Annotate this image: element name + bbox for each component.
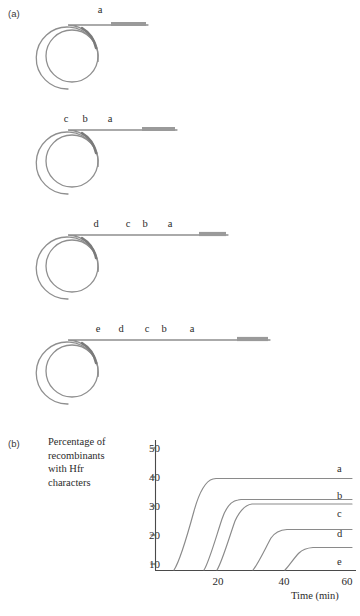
curve-a	[174, 479, 352, 571]
chromosome-origin-arc	[82, 343, 96, 363]
panel-a-conjugation-diagrams: (a) a c b a	[0, 0, 360, 420]
chromosome-outer-spiral	[36, 235, 228, 299]
x-tick-label-60: 60	[342, 575, 353, 587]
panel-b-chart: (b) Percentage of recombinants with Hfr …	[0, 425, 360, 616]
chromosome-outer-spiral	[36, 25, 148, 89]
gene-label: a	[190, 323, 195, 334]
chromosome-outer-spiral	[36, 340, 270, 404]
hfr-chromosome-1: a	[0, 0, 360, 105]
hfr-strand-svg-3	[0, 210, 360, 315]
curve-label-d: d	[337, 528, 342, 539]
curve-c	[217, 504, 352, 570]
hfr-chromosome-2: c b a	[0, 105, 360, 210]
gene-label: b	[142, 218, 147, 229]
hfr-strand-svg-4	[0, 315, 360, 420]
gene-label: d	[93, 218, 98, 229]
x-tick-label-20: 20	[213, 575, 224, 587]
gene-label: c	[64, 113, 69, 124]
curve-label-e: e	[337, 556, 342, 567]
curve-label-b: b	[337, 490, 342, 501]
curve-label-a: a	[337, 463, 342, 474]
hfr-strand-svg-1	[0, 0, 360, 105]
curve-label-c: c	[337, 508, 342, 519]
gene-label: c	[145, 323, 150, 334]
curve-b	[204, 500, 352, 571]
chromosome-origin-arc	[82, 28, 96, 48]
gene-label: a	[108, 113, 113, 124]
x-axis-title: Time (min)	[291, 590, 339, 601]
chromosome-origin-arc	[82, 238, 96, 258]
hfr-chromosome-3: d c b a	[0, 210, 360, 315]
gene-label: b	[82, 113, 87, 124]
gene-label: c	[126, 218, 131, 229]
chromosome-origin-arc	[82, 133, 96, 153]
x-tick-label-40: 40	[279, 575, 290, 587]
gene-label: b	[161, 323, 166, 334]
hfr-chromosome-4: e d c b a	[0, 315, 360, 420]
gene-label: d	[118, 323, 123, 334]
gene-label: e	[96, 323, 101, 334]
hfr-strand-svg-2	[0, 105, 360, 210]
plot-area	[0, 425, 360, 616]
gene-label: a	[168, 218, 173, 229]
gene-label: a	[98, 4, 103, 15]
